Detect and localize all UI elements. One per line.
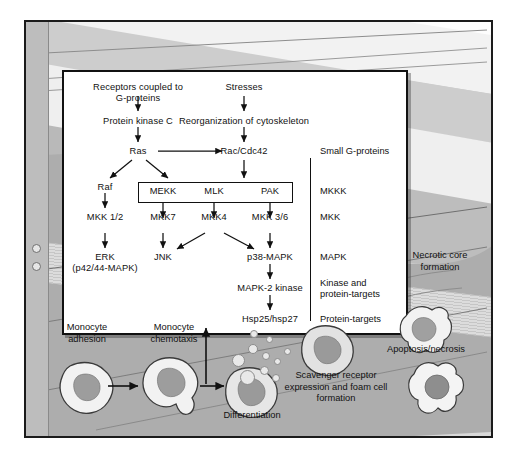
node-pak: PAK — [250, 186, 290, 197]
node-mkk-3-6: MKK 3/6 — [242, 212, 298, 223]
vessel-wall-strip — [26, 22, 49, 436]
label-scavenger-line2: expression and foam cell — [260, 382, 412, 394]
label-apoptosis-necrosis: Apoptosis/necrosis — [370, 344, 482, 356]
node-receptors-line2: G-proteins — [78, 93, 198, 104]
node-raf: Raf — [85, 182, 125, 193]
node-rac-cdc42: Rac/Cdc42 — [214, 146, 274, 157]
node-erk-line1: ERK — [60, 252, 150, 263]
label-monocyte-chemotaxis-line1: Monocyte — [126, 322, 222, 334]
node-receptors-g-proteins: Receptors coupled to G-proteins — [78, 82, 198, 103]
lipid-droplet — [250, 330, 258, 338]
arrow-chemotaxis-to-differentiation — [198, 374, 232, 398]
label-necrotic-line1: Necrotic core — [394, 250, 486, 262]
node-receptors-line1: Receptors coupled to — [78, 82, 198, 93]
legend-mapk: MAPK — [320, 252, 346, 263]
legend-small-g-proteins: Small G-proteins — [320, 146, 389, 157]
lipid-droplet — [284, 348, 291, 355]
label-necrotic-core: Necrotic core formation — [394, 250, 486, 273]
node-mapk-2-kinase: MAPK-2 kinase — [226, 283, 314, 294]
node-ras: Ras — [118, 146, 158, 157]
vessel-wall-dot — [32, 262, 41, 271]
vessel-wall-dot — [32, 244, 41, 253]
label-monocyte-chemotaxis: Monocyte chemotaxis — [126, 322, 222, 345]
node-erk-line2: (p42/44-MAPK) — [60, 263, 150, 274]
node-p38-mapk: p38-MAPK — [238, 252, 302, 263]
legend-kinase-targets-line2: protein-targets — [320, 289, 380, 300]
figure-root: Receptors coupled to G-proteins Stresses… — [0, 0, 509, 465]
lipid-droplet — [240, 370, 255, 385]
node-reorganization-cytoskeleton: Reorganization of cytoskeleton — [174, 116, 314, 127]
legend-kinase-targets-line1: Kinase and — [320, 278, 367, 289]
node-protein-kinase-c: Protein kinase C — [88, 116, 188, 127]
node-mlk: MLK — [194, 186, 234, 197]
label-monocyte-adhesion-line1: Monocyte — [44, 322, 130, 334]
node-mkk4: MKK4 — [191, 212, 237, 223]
node-mekk: MEKK — [140, 186, 186, 197]
arrow-adhesion-to-chemotaxis — [106, 374, 146, 398]
label-monocyte-chemotaxis-line2: chemotaxis — [126, 334, 222, 346]
node-stresses: Stresses — [214, 82, 274, 93]
node-mkk7: MKK7 — [140, 212, 186, 223]
legend-mkkk: MKKK — [320, 186, 346, 197]
lipid-droplet — [266, 336, 273, 343]
lipid-droplet — [232, 354, 245, 367]
label-monocyte-adhesion-line2: adhesion — [44, 334, 130, 346]
lipid-droplet — [262, 352, 270, 360]
label-scavenger-receptor: Scavenger receptor expression and foam c… — [260, 370, 412, 405]
node-mkk-1-2: MKK 1/2 — [75, 212, 135, 223]
artery-cross-section-frame: Receptors coupled to G-proteins Stresses… — [24, 20, 493, 438]
label-scavenger-line3: formation — [260, 393, 412, 405]
node-jnk: JNK — [143, 252, 183, 263]
label-necrotic-line2: formation — [394, 262, 486, 274]
legend-mkk: MKK — [320, 212, 340, 223]
label-differentiation: Differentiation — [206, 410, 298, 422]
node-erk: ERK (p42/44-MAPK) — [60, 252, 150, 273]
signalling-pathway-panel: Receptors coupled to G-proteins Stresses… — [62, 70, 408, 335]
cell-apoptotic-macrophage — [404, 360, 470, 420]
lipid-droplet — [248, 344, 258, 354]
label-monocyte-adhesion: Monocyte adhesion — [44, 322, 130, 345]
lipid-droplet — [274, 358, 281, 365]
label-scavenger-line1: Scavenger receptor — [260, 370, 412, 382]
